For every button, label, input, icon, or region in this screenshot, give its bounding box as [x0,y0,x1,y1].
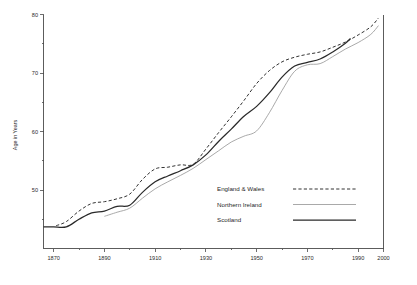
x-tick-label: 1870 [47,255,59,261]
y-tick-label: 50 [32,187,38,193]
x-tick-label: 1990 [352,255,364,261]
x-tick-label: 1950 [250,255,262,261]
series-line-scotland [44,38,351,227]
x-axis-tick-labels: 18701890191019301950197019902000 [47,255,389,261]
x-tick-label: 2000 [377,255,389,261]
y-tick-label: 60 [32,129,38,135]
plot-frame [44,15,384,249]
legend-label-england-wales: England & Wales [217,185,264,192]
y-tick-label: 80 [32,12,38,18]
legend-label-scotland: Scotland [217,216,242,223]
y-axis-ticks [40,15,43,220]
y-axis-title: Age in Years [12,120,18,151]
x-tick-label: 1910 [149,255,161,261]
chart-container: 50607080 1870189019101930195019701990200… [0,0,417,285]
x-tick-label: 1970 [301,255,313,261]
x-tick-label: 1930 [200,255,212,261]
x-tick-label: 1890 [98,255,110,261]
series-line-england-wales [56,18,378,226]
data-series-group [44,18,379,227]
legend-label-northern-ireland: Northern Ireland [217,201,262,208]
y-tick-label: 70 [32,70,38,76]
x-axis-ticks [54,249,384,252]
chart-legend: England & WalesNorthern IrelandScotland [217,185,356,223]
line-chart: 50607080 1870189019101930195019701990200… [0,0,417,285]
y-axis-tick-labels: 50607080 [32,12,38,194]
